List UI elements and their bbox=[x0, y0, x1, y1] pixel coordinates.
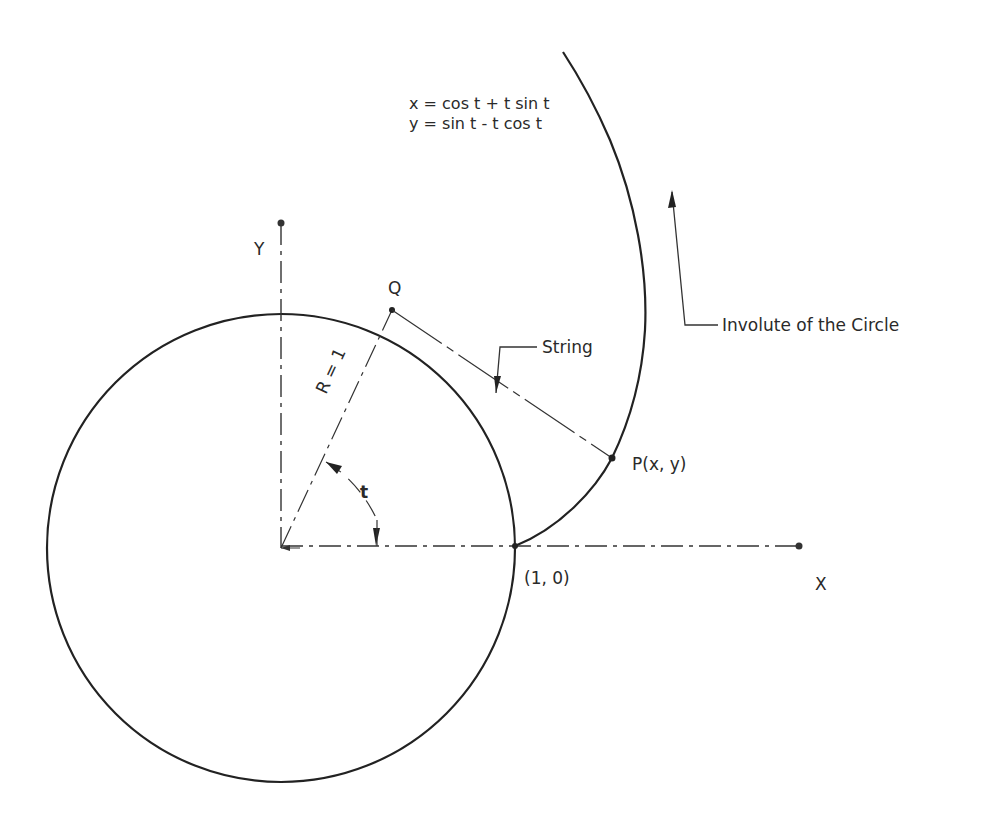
y-axis-label: Y bbox=[253, 239, 265, 259]
radius-line bbox=[281, 310, 392, 548]
point-start-label: (1, 0) bbox=[524, 568, 570, 588]
string-line bbox=[392, 310, 612, 458]
angle-arc bbox=[326, 462, 377, 520]
angle-label: t bbox=[360, 482, 368, 502]
involute-label: Involute of the Circle bbox=[722, 315, 899, 335]
y-axis-top-dot bbox=[278, 220, 285, 227]
point-start-dot bbox=[512, 543, 518, 549]
equation-x: x = cos t + t sin t bbox=[409, 94, 550, 113]
angle-arrow-icon-top bbox=[326, 462, 342, 474]
string-label: String bbox=[542, 337, 593, 357]
radius-label: R = 1 bbox=[311, 345, 349, 397]
involute-leader-arrow-icon bbox=[668, 190, 676, 208]
x-axis-label: X bbox=[815, 574, 827, 594]
point-q-label: Q bbox=[388, 278, 401, 298]
string-leader bbox=[496, 347, 537, 393]
equation-y: y = sin t - t cos t bbox=[409, 114, 542, 133]
involute-leader bbox=[672, 192, 718, 325]
string-leader-arrow-icon bbox=[494, 376, 501, 393]
point-p-label: P(x, y) bbox=[632, 454, 686, 474]
x-axis-end-dot bbox=[796, 543, 803, 550]
involute-diagram: x = cos t + t sin t y = sin t - t cos t … bbox=[0, 0, 996, 829]
